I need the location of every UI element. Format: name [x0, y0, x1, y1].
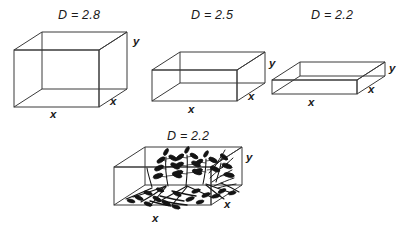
panel-4-axis-y: y [246, 152, 252, 164]
panel-2-axis-y: y [269, 58, 275, 70]
panel-1-axis-x-front: x [50, 109, 56, 121]
fractal-dimension-figure: D = 2.8 y x x D = 2.5 y x x D = 2.2 y x … [0, 0, 408, 246]
panel-1-axis-y: y [133, 36, 139, 48]
panel-3-axis-x-side: x [368, 84, 374, 96]
box-diagram-svg [0, 0, 408, 246]
panel-3-axis-x-front: x [308, 97, 314, 109]
panel-3-axis-y: y [389, 63, 395, 75]
panel-3-d-label: D = 2.2 [311, 9, 353, 22]
panel-4-d-label: D = 2.2 [167, 130, 209, 143]
panel-1-d-label: D = 2.8 [58, 9, 100, 22]
panel-2-d-label: D = 2.5 [191, 9, 233, 22]
plant-root-system [126, 146, 239, 210]
panel-2-axis-x-side: x [248, 91, 254, 103]
panel-2-axis-x-front: x [188, 104, 194, 116]
panel-4-axis-x-side: x [224, 199, 230, 211]
panel-1-axis-x-side: x [110, 96, 116, 108]
panel-4-axis-x-front: x [152, 213, 158, 225]
